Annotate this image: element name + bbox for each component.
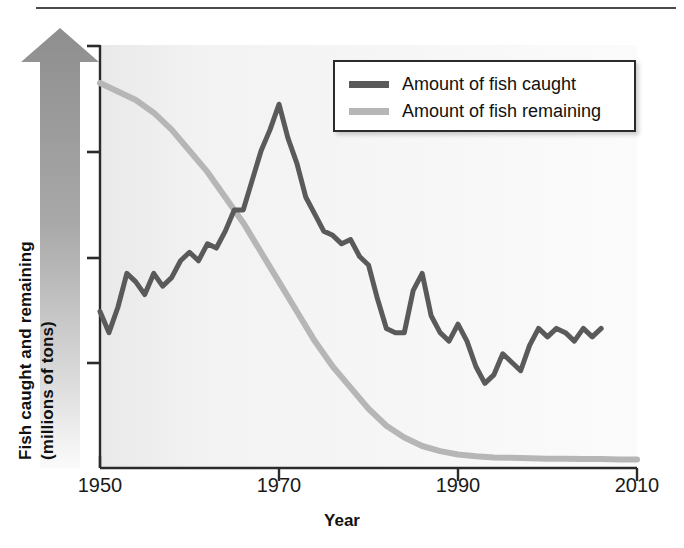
y-axis-ticks [87, 46, 100, 363]
legend-item-fish-caught: Amount of fish caught [349, 71, 576, 97]
legend-swatch-fish-remaining [349, 108, 389, 115]
chart-legend: Amount of fish caught Amount of fish rem… [333, 60, 636, 132]
legend-item-fish-remaining: Amount of fish remaining [349, 98, 601, 124]
legend-label-fish-caught: Amount of fish caught [402, 74, 576, 95]
x-tick-label-2010: 2010 [602, 474, 672, 497]
x-axis-label: Year [0, 511, 684, 531]
x-tick-label-1970: 1970 [244, 474, 314, 497]
x-tick-label-1950: 1950 [65, 474, 135, 497]
figure-container: Fish caught and remaining (millions of t… [0, 0, 684, 548]
y-axis-arrow [21, 28, 99, 468]
legend-label-fish-remaining: Amount of fish remaining [402, 101, 601, 122]
legend-swatch-fish-caught [349, 81, 389, 88]
x-tick-label-1990: 1990 [423, 474, 493, 497]
